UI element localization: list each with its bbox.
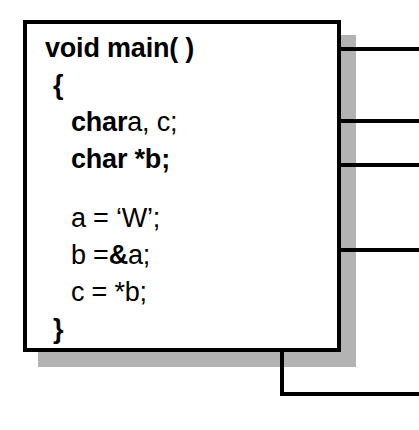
line-b-assign-amp-a-seg-1: & <box>109 240 128 270</box>
line-char-star-b: char *b; <box>41 141 337 178</box>
line-open-brace-seg-0: { <box>53 70 63 100</box>
line-b-assign-amp-a-seg-2: a; <box>128 240 150 270</box>
line-blank <box>41 178 337 200</box>
line-close-brace-seg-0: } <box>53 314 63 344</box>
line-close-brace: } <box>41 311 337 348</box>
line-char-star-b-seg-0: char *b; <box>71 144 170 174</box>
line-char-a-c-seg-0: char <box>71 107 127 137</box>
line-c-assign-star-b: c = *b; <box>41 274 337 311</box>
line-a-assign-w-seg-0: a = ‘W’; <box>71 203 160 233</box>
diagram-canvas: void main( ){chara, c;char *b;a = ‘W’;b … <box>0 0 419 430</box>
code-listing: void main( ){chara, c;char *b;a = ‘W’;b … <box>27 24 337 348</box>
line-a-assign-w: a = ‘W’; <box>41 200 337 237</box>
line-char-a-c: chara, c; <box>41 104 337 141</box>
line-void-main-seg-0: void main( ) <box>45 33 194 63</box>
line-void-main: void main( ) <box>41 30 337 67</box>
line-c-assign-star-b-seg-0: c = *b; <box>71 277 147 307</box>
line-char-a-c-seg-1: a, c; <box>127 107 177 137</box>
code-box: void main( ){chara, c;char *b;a = ‘W’;b … <box>23 20 341 352</box>
line-b-assign-amp-a: b =&a; <box>41 237 337 274</box>
line-b-assign-amp-a-seg-0: b = <box>71 240 109 270</box>
line-open-brace: { <box>41 67 337 104</box>
